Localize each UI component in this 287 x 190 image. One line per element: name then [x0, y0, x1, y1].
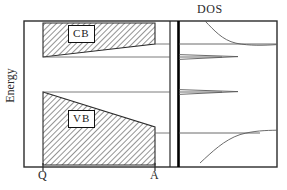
dos-panel-title: DOS — [197, 2, 223, 17]
band-diagram-figure: DOS Energy Q A CB VB — [0, 0, 287, 190]
conduction-band-wedge — [43, 23, 155, 57]
valence-band-wedge — [43, 92, 155, 165]
valence-band-label: VB — [68, 110, 95, 128]
energy-axis-label: Energy — [3, 58, 18, 114]
cb-edge-curve — [205, 21, 277, 45]
conduction-band-label: CB — [68, 25, 95, 43]
vb-edge-curve — [200, 130, 277, 163]
diagram-canvas — [0, 0, 287, 190]
x-tick-label-a: A — [150, 168, 159, 183]
x-tick-label-q: Q — [38, 168, 47, 183]
dos-curves — [179, 21, 277, 163]
